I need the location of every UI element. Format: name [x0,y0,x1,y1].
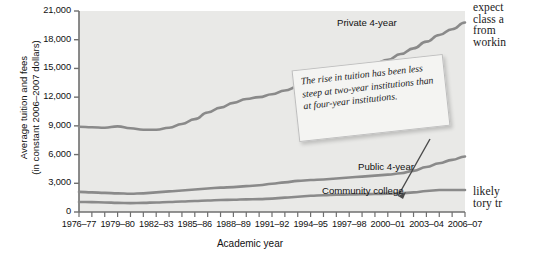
callout-text: The rise in tuition has been less steep … [300,60,443,113]
page-body-text-bottom: likely tory tr [473,186,502,209]
series-label-public-4-year: Public 4-year [358,161,414,172]
series-label-community-college: Community college [322,185,404,196]
y-axis-title: Average tuition and fees(in constant 200… [18,13,41,203]
chart-svg [0,0,533,255]
tuition-chart-figure: 03,0006,0009,00012,00015,00018,00021,000… [0,0,533,255]
y-tick-label: 0 [25,206,71,216]
x-tick-label: 2006–07 [440,219,490,229]
x-axis-title: Academic year [180,238,320,249]
page-body-text-top: expect class a from workin [473,2,506,48]
series-label-private-4-year: Private 4-year [337,17,397,28]
series-line-2 [79,190,465,203]
